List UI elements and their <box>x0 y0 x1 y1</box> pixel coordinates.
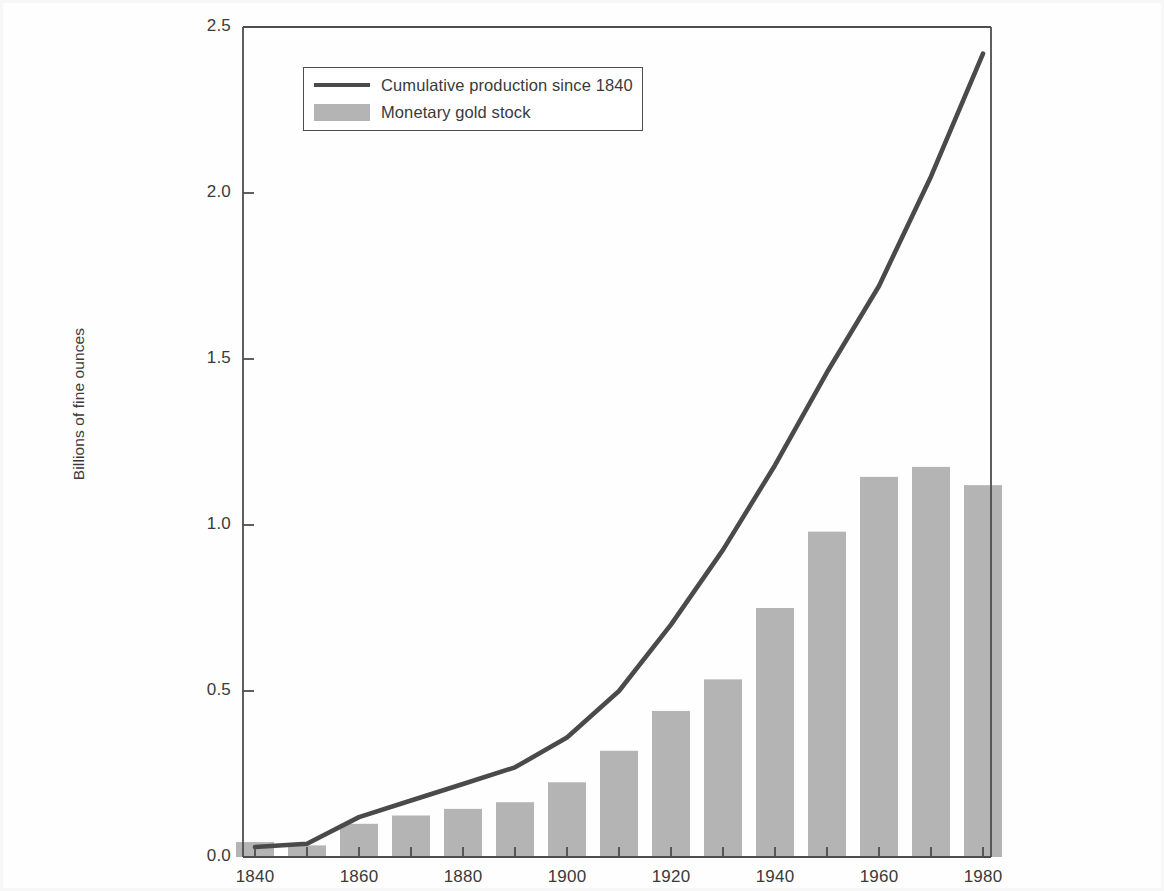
y-tick-label-1.0: 1.0 <box>171 514 231 534</box>
y-tick-label-2.0: 2.0 <box>171 182 231 202</box>
chart-page: Billions of fine ounces 0.00.51.01.52.02… <box>0 0 1164 891</box>
y-tick-label-0.5: 0.5 <box>171 680 231 700</box>
bar-1940 <box>756 608 794 857</box>
y-tick-label-2.5: 2.5 <box>171 16 231 36</box>
chart-legend: Cumulative production since 1840 Monetar… <box>303 67 643 131</box>
y-axis-label: Billions of fine ounces <box>70 284 88 524</box>
gold-stock-chart <box>3 3 1164 891</box>
bar-1930 <box>704 679 742 857</box>
x-tick-label-1960: 1960 <box>839 867 919 887</box>
y-tick-label-0.0: 0.0 <box>171 846 231 866</box>
bar-series-monetary-gold-stock <box>236 467 1002 857</box>
x-tick-label-1840: 1840 <box>215 867 295 887</box>
bar-1960 <box>860 477 898 857</box>
bar-1950 <box>808 532 846 857</box>
x-tick-label-1880: 1880 <box>423 867 503 887</box>
bar-1970 <box>912 467 950 857</box>
bar-1920 <box>652 711 690 857</box>
bar-1900 <box>548 782 586 857</box>
legend-label: Monetary gold stock <box>381 103 531 122</box>
legend-item-cumulative-production: Cumulative production since 1840 <box>314 72 633 98</box>
legend-swatch-marker-icon <box>314 104 370 121</box>
x-tick-label-1940: 1940 <box>735 867 815 887</box>
y-tick-label-1.5: 1.5 <box>171 348 231 368</box>
legend-item-monetary-gold-stock: Monetary gold stock <box>314 99 531 125</box>
x-tick-label-1860: 1860 <box>319 867 399 887</box>
x-tick-label-1920: 1920 <box>631 867 711 887</box>
legend-label: Cumulative production since 1840 <box>381 76 633 95</box>
legend-line-marker-icon <box>314 83 370 88</box>
x-tick-label-1900: 1900 <box>527 867 607 887</box>
x-tick-label-1980: 1980 <box>943 867 1023 887</box>
bar-1980 <box>964 485 1002 857</box>
bar-1910 <box>600 751 638 857</box>
